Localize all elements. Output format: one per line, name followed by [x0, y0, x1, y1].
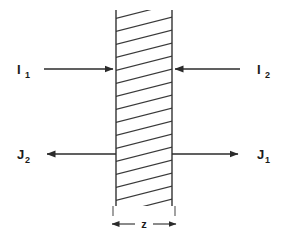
- slab-flux-diagram: I 1 I 2 J 2 J 1 z: [0, 0, 284, 238]
- slab-hatching: [90, 0, 200, 238]
- label-J1-sub: 1: [265, 155, 270, 165]
- label-I2-base: I: [257, 62, 261, 77]
- label-J1-base: J: [257, 147, 264, 162]
- label-J2-base: J: [17, 147, 24, 162]
- label-I1-sub: 1: [25, 70, 30, 80]
- label-I1-base: I: [17, 62, 21, 77]
- label-J2-sub: 2: [25, 155, 30, 165]
- dimension-label-z: z: [141, 218, 147, 230]
- figure-container: I 1 I 2 J 2 J 1 z: [0, 0, 284, 238]
- label-I2-sub: 2: [265, 70, 270, 80]
